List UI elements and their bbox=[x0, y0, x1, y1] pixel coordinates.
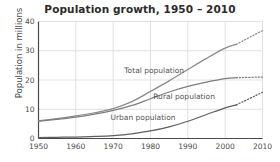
series-line-projection bbox=[236, 77, 262, 78]
x-tick-label: 1950 bbox=[29, 142, 48, 151]
x-tick-label: 1960 bbox=[66, 142, 85, 151]
series-line-projection bbox=[236, 92, 262, 105]
series-inline-label: Rural population bbox=[153, 92, 215, 101]
series-inline-labels: Total populationRural populationUrban po… bbox=[111, 66, 216, 122]
x-tick-label: 1980 bbox=[141, 142, 160, 151]
x-tick-label: 1990 bbox=[178, 142, 197, 151]
y-tick-label: 40 bbox=[25, 17, 35, 26]
x-tick-label: 2000 bbox=[216, 142, 235, 151]
axis-tick-labels: 0102030401950196019701980199020002010 bbox=[25, 17, 272, 150]
x-tick-label: 1970 bbox=[104, 142, 123, 151]
series-inline-label: Total population bbox=[123, 66, 184, 75]
series-inline-label: Urban population bbox=[111, 113, 176, 122]
y-tick-label: 10 bbox=[25, 105, 35, 114]
population-growth-chart: Population growth, 1950 – 2010 Populatio… bbox=[0, 0, 280, 162]
series-line-projection bbox=[236, 31, 262, 45]
x-tick-label: 2010 bbox=[253, 142, 272, 151]
plot-area: 0102030401950196019701980199020002010 To… bbox=[0, 0, 280, 162]
y-tick-label: 20 bbox=[25, 76, 35, 85]
y-tick-label: 30 bbox=[25, 46, 35, 55]
